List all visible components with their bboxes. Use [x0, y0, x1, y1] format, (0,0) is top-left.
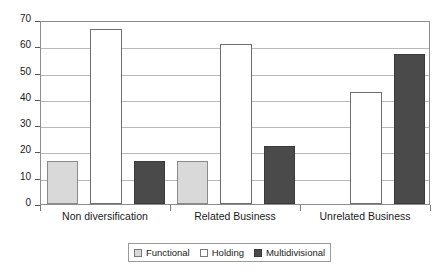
chart-legend: FunctionalHoldingMultidivisional: [128, 243, 331, 262]
y-axis-tick-label: 70: [20, 14, 31, 24]
y-axis: 010203040506070: [0, 0, 40, 206]
y-axis-tick-label: 40: [20, 93, 31, 103]
x-axis-category-label: Related Business: [170, 210, 300, 222]
x-axis-category-label: Non diversification: [40, 210, 170, 222]
bar-multidivisional-unrelated-business: [394, 54, 425, 204]
y-axis-tick-label: 10: [20, 172, 31, 182]
legend-swatch-icon: [134, 249, 142, 257]
bar-holding-unrelated-business: [350, 92, 381, 204]
legend-item-functional[interactable]: Functional: [134, 248, 190, 258]
bar-multidivisional-related-business: [264, 146, 295, 204]
bar-holding-non-diversification: [90, 29, 121, 204]
y-axis-tick-label: 0: [25, 198, 31, 208]
bars-layer: [41, 22, 429, 204]
legend-item-multidivisional[interactable]: Multidivisional: [254, 248, 325, 258]
bar-functional-related-business: [177, 161, 208, 204]
plot-area: [40, 21, 430, 205]
y-axis-tick-label: 20: [20, 145, 31, 155]
legend-item-holding[interactable]: Holding: [200, 248, 244, 258]
x-axis-category-separator: [430, 205, 431, 211]
bar-multidivisional-non-diversification: [134, 161, 165, 204]
legend-item-label: Functional: [146, 248, 190, 258]
legend-item-label: Holding: [212, 248, 244, 258]
x-axis-category-label: Unrelated Business: [300, 210, 430, 222]
legend-item-label: Multidivisional: [266, 248, 325, 258]
bar-holding-related-business: [220, 44, 251, 204]
legend-swatch-icon: [200, 249, 208, 257]
legend-swatch-icon: [254, 249, 262, 257]
y-axis-tick-label: 50: [20, 67, 31, 77]
y-axis-tick-label: 60: [20, 40, 31, 50]
bar-functional-non-diversification: [47, 161, 78, 204]
y-axis-tick-label: 30: [20, 119, 31, 129]
bar-chart: 010203040506070 Non diversificationRelat…: [0, 0, 443, 273]
